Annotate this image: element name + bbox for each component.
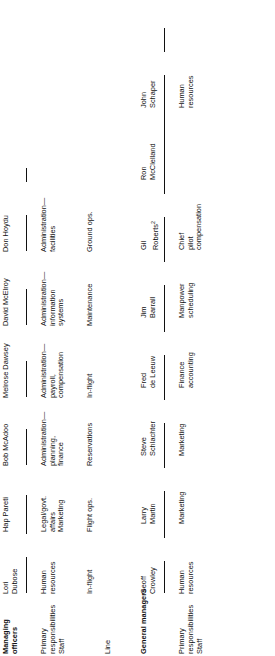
line-responsibility: In-flight xyxy=(86,374,95,398)
connector-line xyxy=(26,361,27,397)
person-column: Fred de LeeuwFinance accounting xyxy=(138,318,275,388)
person-name: John Schaper xyxy=(140,80,157,108)
connector-line xyxy=(164,28,165,52)
staff-responsibility: Marketing xyxy=(178,424,187,456)
rotated-figure-inner: Managing officersPrimary responsibilitie… xyxy=(0,0,275,656)
person-column: Geoff CrowleyHuman resources xyxy=(138,524,275,594)
staff-responsibility: Marketing xyxy=(178,492,187,524)
line-responsibility: Ground ops. xyxy=(86,211,95,252)
staff-responsibility: Administration— information systems xyxy=(40,272,66,326)
connector-line xyxy=(26,168,27,182)
section-managing-officers: Managing officersPrimary responsibilitie… xyxy=(0,0,138,656)
line-responsibility: In-flight xyxy=(86,570,95,594)
connector-line xyxy=(164,217,165,249)
person-name: Gil Roberts2 xyxy=(140,221,161,250)
section-title: Managing officers xyxy=(2,619,19,654)
staff-responsibility: Administration— planning, finance xyxy=(40,412,66,466)
person-name: Melrose Dawsey xyxy=(2,343,11,398)
row-label-primary-responsibilities: Primary responsibilities xyxy=(40,605,57,654)
person-column: Gil Roberts2Chief pilot compensation xyxy=(138,180,275,250)
connector-line xyxy=(26,495,27,531)
line-responsibility: Maintenance xyxy=(86,284,95,326)
footnote-marker: 2 xyxy=(150,221,156,224)
connector-line xyxy=(26,429,27,465)
person-name: Steve Schlachter xyxy=(140,421,157,456)
connector-line xyxy=(26,215,27,251)
connector-line xyxy=(164,491,165,523)
person-column: Ron McClelland xyxy=(138,110,275,180)
person-name: Lori Dubose xyxy=(2,569,19,594)
staff-responsibility: Human resources xyxy=(178,562,195,594)
connector-line xyxy=(164,355,165,387)
staff-responsibility: Legal/govt. affairs Marketing xyxy=(40,496,66,532)
row-label-line: Line xyxy=(104,640,113,654)
staff-responsibility: Finance accounting xyxy=(178,352,195,388)
staff-responsibility: Administration— facilities xyxy=(40,198,57,252)
person-column: Don HoyduAdministration— facilitiesGroun… xyxy=(0,160,138,252)
staff-responsibility: Administration— payroll, compensation xyxy=(40,344,66,398)
person-name: David McElroy xyxy=(2,278,11,326)
connector-line xyxy=(26,289,27,325)
section-general-managers: General managersPrimary responsibilities… xyxy=(138,0,275,656)
connector-line xyxy=(26,557,27,593)
person-name: Hap Pareti xyxy=(2,497,11,532)
person-name: Ron McClelland xyxy=(140,143,157,180)
staff-responsibility: Human resources xyxy=(178,76,195,108)
person-column: Jim BarrallManpower scheduling xyxy=(138,248,275,318)
section-title: General managers xyxy=(140,589,149,654)
person-name: Larry Martin xyxy=(140,503,157,524)
connector-line xyxy=(164,423,165,455)
person-column: John SchaperHuman resources xyxy=(138,38,275,108)
connector-line xyxy=(164,101,165,179)
person-column: Steve SchlachterMarketing xyxy=(138,386,275,456)
person-name: Geoff Crowley xyxy=(140,567,157,594)
person-name: Fred de Leeuw xyxy=(140,356,157,388)
row-label-staff: Staff xyxy=(196,639,205,654)
staff-responsibility: Chief pilot compensation xyxy=(178,204,204,250)
line-responsibility: Reservations xyxy=(86,423,95,466)
connector-line xyxy=(164,75,165,107)
person-column: Larry MartinMarketing xyxy=(138,454,275,524)
staff-responsibility: Human resources xyxy=(40,562,57,594)
person-name: Bob McAdoo xyxy=(2,424,11,466)
person-name: Jim Barrall xyxy=(140,297,157,318)
person-name: Don Hoydu xyxy=(2,215,11,252)
connector-line xyxy=(164,561,165,593)
row-label-primary-responsibilities: Primary responsibilities xyxy=(178,605,195,654)
connector-line xyxy=(164,285,165,317)
staff-responsibility: Manpower scheduling xyxy=(178,283,195,318)
row-label-staff: Staff xyxy=(58,639,67,654)
rotated-figure-wrapper: Managing officersPrimary responsibilitie… xyxy=(0,0,275,656)
line-responsibility: Flight ops. xyxy=(86,498,95,532)
org-chart: Managing officersPrimary responsibilitie… xyxy=(0,0,275,656)
